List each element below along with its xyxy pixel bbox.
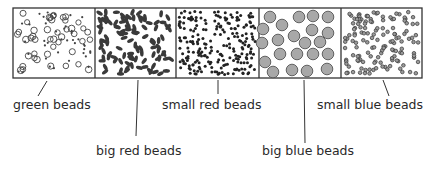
panel-big-blue-beads: [256, 10, 334, 78]
bead-diagram: [0, 0, 436, 172]
label-small-red-beads: small red beads: [162, 97, 261, 112]
panel-green-beads: [14, 10, 92, 73]
panel-small-red-beads: [178, 10, 257, 76]
panel-small-blue-beads: [343, 10, 420, 75]
label-big-red-beads: big red beads: [96, 143, 182, 158]
label-green-beads: green beads: [13, 97, 91, 112]
panel-big-red-beads: [96, 8, 175, 77]
label-big-blue-beads: big blue beads: [262, 143, 354, 158]
label-small-blue-beads: small blue beads: [317, 97, 423, 112]
